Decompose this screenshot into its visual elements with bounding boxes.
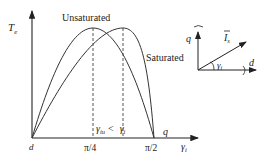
current-vector-label: Is [223, 32, 230, 44]
origin-label: d [29, 142, 34, 152]
tick-half-pi: π/2 [145, 143, 157, 153]
saturated-label: Saturated [146, 52, 184, 63]
q-axis-label: q [186, 33, 191, 44]
x-axis-label: γi [181, 141, 187, 153]
torque-angle-diagram: Te Unsaturated Saturated d π/4 π/2 q γi … [0, 0, 269, 155]
angle-label: γi [217, 60, 223, 71]
x-end-label: q [163, 126, 168, 137]
d-axis-label: d [249, 57, 255, 68]
inequality-label: γiu<γi [96, 123, 126, 135]
y-axis-label: Te [8, 21, 17, 36]
tick-quarter-pi: π/4 [84, 143, 96, 153]
unsaturated-label: Unsaturated [62, 12, 110, 23]
dq-vector-diagram: q d Is γi [186, 26, 256, 76]
